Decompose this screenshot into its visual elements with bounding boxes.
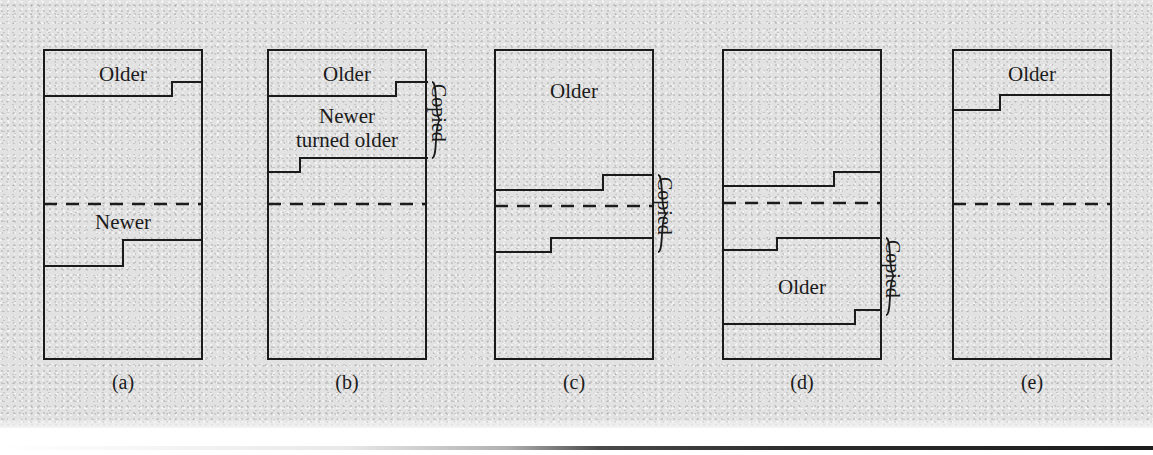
copied-label-d: Copied <box>881 240 904 298</box>
panel-c: Older Copied (c) <box>451 0 681 428</box>
lower-boundary-c <box>494 238 654 252</box>
line-1: Newer turned older <box>296 104 398 152</box>
panel-label-a: (a) <box>43 371 203 394</box>
panel-e: Older (e) <box>909 0 1139 428</box>
panel-a: Older Newer (a) <box>0 0 230 428</box>
panel-d: Older Copied (d) <box>679 0 909 428</box>
copied-label-b: Copied <box>427 84 450 142</box>
older-boundary-e <box>952 95 1112 110</box>
region-label-older-e: Older <box>952 63 1112 87</box>
upper-boundary-d <box>722 172 882 186</box>
newer-turned-older-boundary-b <box>267 158 428 172</box>
region-label-newer-a: Newer <box>43 211 203 235</box>
region-label-older-b: Older <box>267 63 427 87</box>
panel-d-lines <box>679 0 909 428</box>
panel-c-lines <box>451 0 681 428</box>
upper-boundary-c <box>494 175 654 190</box>
bottom-rule <box>0 446 1153 450</box>
figure-root: Older Newer (a) Older Newer turned older… <box>0 0 1153 455</box>
lower-boundary-d <box>722 310 882 324</box>
region-label-older-a: Older <box>43 63 203 87</box>
copied-label-c: Copied <box>653 177 676 235</box>
region-label-newer-turned-older-b: Newer turned older <box>267 105 427 152</box>
panel-label-c: (c) <box>494 371 654 394</box>
panel-b: Older Newer turned older Copied (b) <box>224 0 454 428</box>
region-label-older-c: Older <box>494 80 654 104</box>
panel-label-e: (e) <box>952 371 1112 394</box>
region-label-older-d: Older <box>722 276 882 300</box>
panel-label-b: (b) <box>267 371 427 394</box>
panel-label-d: (d) <box>722 371 882 394</box>
newer-boundary-a <box>43 240 203 266</box>
middle-boundary-d <box>722 238 882 250</box>
